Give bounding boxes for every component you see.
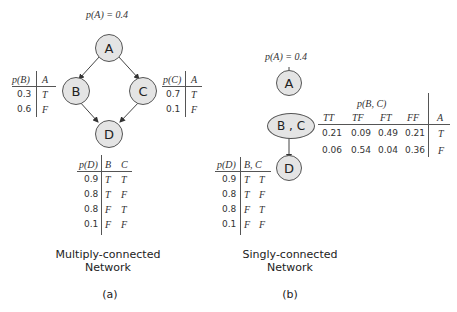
cpt-d-b-value: T <box>105 174 111 185</box>
cpt-c-rule <box>162 86 202 87</box>
caption-b-line1: Singly-connected <box>232 248 348 261</box>
cpt-bc-value: 0.21 <box>405 128 425 138</box>
edge-a-b <box>79 56 100 79</box>
cpt-d-value: 0.1 <box>84 219 98 229</box>
node-bc: B , C <box>267 113 315 139</box>
cpt-d-header-c: C <box>121 159 128 170</box>
cpt-bc-value: 0.54 <box>351 145 371 155</box>
cpt-d-divider <box>101 155 102 235</box>
cpt-bc-rule <box>318 124 450 125</box>
cpt-bc-divider <box>428 93 429 157</box>
cpt-bc-header-parent: A <box>437 112 443 123</box>
cpt-c-header-prob: p(C) <box>163 74 181 85</box>
node-a-b: A <box>276 70 302 96</box>
cpt-d-value: 0.9 <box>84 174 98 184</box>
cpt-b-value: 0.3 <box>17 89 31 99</box>
caption-a-line1: Multiply-connected <box>50 248 166 261</box>
cpt-b-divider <box>36 71 37 117</box>
cpt-bc-header: TF <box>352 112 364 123</box>
cpt-d-b-b-value: F <box>244 204 250 215</box>
cpt-d-b-value: 0.8 <box>222 204 236 214</box>
cpt-d-header-b: B <box>105 159 111 170</box>
cpt-d-value: 0.8 <box>84 204 98 214</box>
panel-label-b: (b) <box>275 288 305 301</box>
cpt-d-b-header-prob: p(D) <box>217 159 236 170</box>
cpt-bc-value: 0.06 <box>322 145 342 155</box>
cpt-bc-value: 0.09 <box>351 128 371 138</box>
cpt-b-header-parent: A <box>42 74 48 85</box>
cpt-d-b-value: F <box>105 204 111 215</box>
cpt-b-parent-value: F <box>42 104 48 115</box>
cpt-d-b-value: T <box>105 189 111 200</box>
cpt-bc-header: FF <box>407 112 419 123</box>
cpt-d-c-value: F <box>121 189 127 200</box>
node-d-b: D <box>276 155 302 181</box>
cpt-d-b-b-value: T <box>244 174 250 185</box>
cpt-d-b-c-value: F <box>259 219 265 230</box>
cpt-bc-header: FT <box>380 112 392 123</box>
cpt-d-b-header-parents: B, C <box>244 159 262 170</box>
cpt-d-b-b-value: T <box>244 189 250 200</box>
caption-a: Multiply-connected Network <box>50 248 166 274</box>
cpt-b-value: 0.6 <box>17 104 31 114</box>
cpt-d-b-rule <box>215 171 271 172</box>
cpt-d-c-value: T <box>121 174 127 185</box>
prior-b-label: p(A) = 0.4 <box>265 51 307 62</box>
panel-label-a: (a) <box>95 288 125 301</box>
cpt-bc-parent-value: F <box>438 145 444 156</box>
cpt-c-value: 0.7 <box>166 89 180 99</box>
cpt-b-header-prob: p(B) <box>12 74 30 85</box>
cpt-d-header-prob: p(D) <box>79 159 98 170</box>
cpt-d-b-value: F <box>105 219 111 230</box>
edge-a-c <box>118 56 139 79</box>
cpt-bc-title: p(B, C) <box>357 98 386 109</box>
cpt-d-b-value: 0.1 <box>222 219 236 229</box>
node-c: C <box>129 77 157 105</box>
node-d: D <box>95 120 123 148</box>
cpt-d-b-divider <box>240 157 241 235</box>
cpt-bc-header: TT <box>323 112 334 123</box>
cpt-d-value: 0.8 <box>84 189 98 199</box>
cpt-b-parent-value: T <box>42 89 48 100</box>
cpt-d-c-value: F <box>121 219 127 230</box>
cpt-c-value: 0.1 <box>166 104 180 114</box>
prior-a-label: p(A) = 0.4 <box>86 9 128 20</box>
cpt-bc-value: 0.21 <box>322 128 342 138</box>
cpt-d-b-c-value: F <box>259 189 265 200</box>
cpt-b-rule <box>12 86 56 87</box>
cpt-c-header-parent: A <box>191 74 197 85</box>
caption-a-line2: Network <box>50 261 166 274</box>
cpt-d-b-c-value: T <box>259 204 265 215</box>
cpt-bc-value: 0.49 <box>378 128 398 138</box>
caption-b: Singly-connected Network <box>232 248 348 274</box>
cpt-bc-value: 0.36 <box>405 145 425 155</box>
cpt-d-b-value: 0.9 <box>222 174 236 184</box>
cpt-d-b-b-value: F <box>244 219 250 230</box>
node-b: B <box>62 77 90 105</box>
cpt-bc-parent-value: T <box>438 128 444 139</box>
edge-b-d <box>79 101 98 122</box>
cpt-d-b-c-value: T <box>259 174 265 185</box>
cpt-d-rule <box>77 171 132 172</box>
caption-b-line2: Network <box>232 261 348 274</box>
cpt-bc-value: 0.04 <box>378 145 398 155</box>
cpt-c-divider <box>185 71 186 117</box>
cpt-d-c-value: T <box>121 204 127 215</box>
edge-c-d <box>120 101 140 122</box>
cpt-c-parent-value: T <box>191 89 197 100</box>
node-a: A <box>95 34 123 62</box>
cpt-c-parent-value: F <box>191 104 197 115</box>
cpt-d-b-value: 0.8 <box>222 189 236 199</box>
